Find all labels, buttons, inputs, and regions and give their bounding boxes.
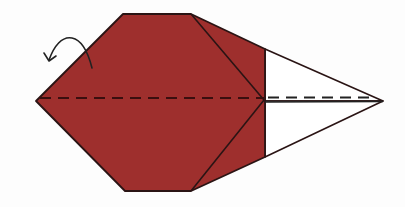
white-flap-top: [265, 49, 383, 101]
origami-diagram: [0, 0, 405, 207]
white-flap-bottom: [265, 101, 383, 157]
diagram-canvas: [0, 0, 405, 207]
colored-paper-body: [36, 14, 265, 191]
center-edge-line: [265, 102, 383, 103]
